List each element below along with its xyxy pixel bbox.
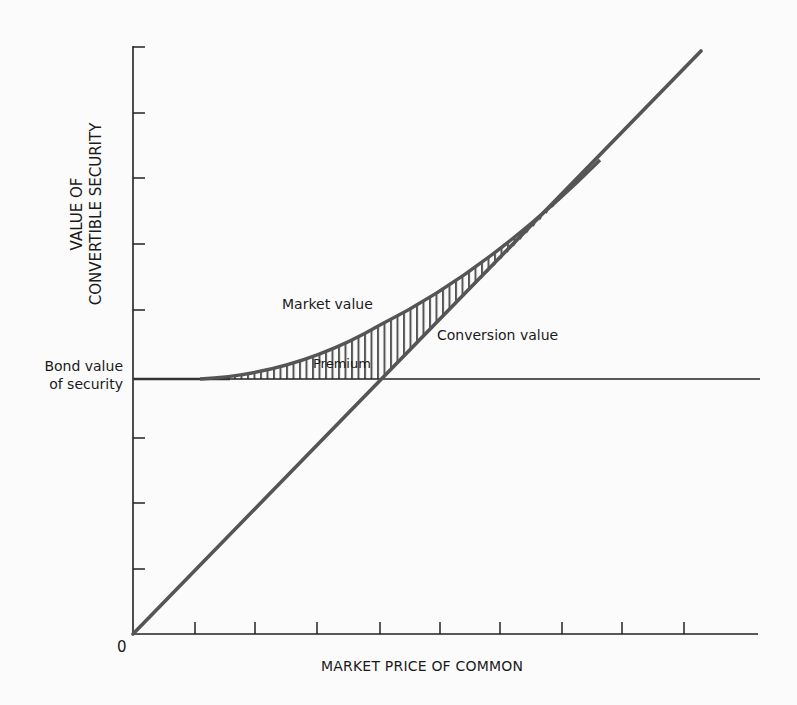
conversion-value-line (133, 51, 701, 634)
y-axis-label-line2: CONVERTIBLE SECURITY (87, 84, 106, 344)
y-ticks (133, 47, 145, 569)
bond-value-label: Bond value of security (35, 357, 123, 393)
market-value-label: Market value (282, 296, 373, 312)
conversion-value-label: Conversion value (437, 327, 558, 343)
chart-canvas (0, 0, 797, 705)
premium-label: Premium (313, 356, 371, 371)
bond-label-line2: of security (35, 375, 123, 393)
x-ticks (195, 622, 684, 634)
bond-label-line1: Bond value (35, 357, 123, 375)
premium-region (200, 160, 600, 379)
y-axis-label-line1: VALUE OF (68, 84, 87, 344)
origin-label: 0 (117, 638, 127, 656)
x-axis-label: MARKET PRICE OF COMMON (321, 658, 523, 674)
y-axis-label: VALUE OF CONVERTIBLE SECURITY (68, 84, 106, 344)
